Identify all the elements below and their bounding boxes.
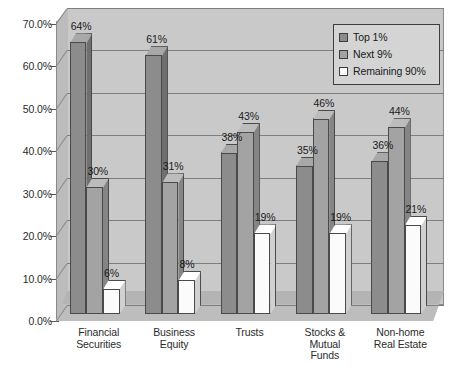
bar-3-next-9 xyxy=(237,132,254,314)
y-axis-tick-label: 70.0% xyxy=(4,19,52,30)
x-axis-category-label-line: Equity xyxy=(129,339,219,351)
legend-swatch-icon xyxy=(339,33,348,42)
legend-item-next-9[interactable]: Next 9% xyxy=(339,46,434,62)
bar-1-remaining-90 xyxy=(103,289,120,314)
bar-3d-side-face xyxy=(421,216,427,314)
legend-item-label: Next 9% xyxy=(353,49,392,60)
bar-value-label: 30% xyxy=(87,166,108,177)
bar-value-label: 36% xyxy=(372,140,393,151)
y-axis-tick-label: 40.0% xyxy=(4,146,52,157)
bar-value-label: 44% xyxy=(389,106,410,117)
chart-legend: Top 1%Next 9%Remaining 90% xyxy=(333,24,440,85)
bar-value-label: 19% xyxy=(255,212,276,223)
bar-4-top-1 xyxy=(296,166,313,315)
bar-value-label: 64% xyxy=(71,21,92,32)
bar-2-next-9 xyxy=(162,182,179,314)
legend-item-label: Top 1% xyxy=(353,32,387,43)
bar-3d-side-face xyxy=(346,224,352,314)
bar-2-top-1 xyxy=(145,55,162,314)
bar-3-top-1 xyxy=(221,153,238,314)
bar-value-label: 61% xyxy=(146,34,167,45)
y-axis: 70.0%60.0%50.0%40.0%30.0%20.0%10.0%0.0% xyxy=(0,0,52,368)
legend-swatch-icon xyxy=(339,67,348,76)
bar-chart: 70.0%60.0%50.0%40.0%30.0%20.0%10.0%0.0% … xyxy=(0,0,450,368)
legend-item-remaining-90[interactable]: Remaining 90% xyxy=(339,63,434,79)
legend-item-top-1[interactable]: Top 1% xyxy=(339,29,434,45)
bar-value-label: 19% xyxy=(330,212,351,223)
bar-value-label: 43% xyxy=(238,111,259,122)
y-axis-tick-label: 0.0% xyxy=(4,316,52,327)
y-axis-tick-label: 30.0% xyxy=(4,189,52,200)
bar-3d-side-face xyxy=(270,224,276,314)
bar-5-top-1 xyxy=(371,161,388,314)
y-axis-tick-label: 10.0% xyxy=(4,274,52,285)
gridline xyxy=(67,8,444,9)
bar-3-remaining-90 xyxy=(254,233,271,314)
bar-value-label: 21% xyxy=(406,204,427,215)
legend-item-label: Remaining 90% xyxy=(353,66,426,77)
bar-5-remaining-90 xyxy=(405,225,422,314)
x-axis-category-label-line: Non-home xyxy=(355,327,445,339)
bar-value-label: 38% xyxy=(222,132,243,143)
y-axis-tick-label: 50.0% xyxy=(4,104,52,115)
legend-swatch-icon xyxy=(339,50,348,59)
y-axis-tick-label: 60.0% xyxy=(4,61,52,72)
bar-value-label: 35% xyxy=(297,145,318,156)
bar-value-label: 31% xyxy=(163,161,184,172)
y-axis-tick-label: 20.0% xyxy=(4,231,52,242)
x-axis-category-label: Non-homeReal Estate xyxy=(355,327,445,350)
bar-value-label: 46% xyxy=(314,98,335,109)
x-axis-category-label-line: Funds xyxy=(280,350,370,362)
bar-4-remaining-90 xyxy=(329,233,346,314)
bar-1-top-1 xyxy=(70,42,87,314)
bar-value-label: 8% xyxy=(179,259,194,270)
bar-5-next-9 xyxy=(388,127,405,314)
x-axis-category-label-line: Real Estate xyxy=(355,339,445,351)
bar-value-label: 6% xyxy=(104,268,119,279)
bar-2-remaining-90 xyxy=(178,280,195,314)
bar-1-next-9 xyxy=(86,187,103,314)
gridline xyxy=(67,93,444,94)
